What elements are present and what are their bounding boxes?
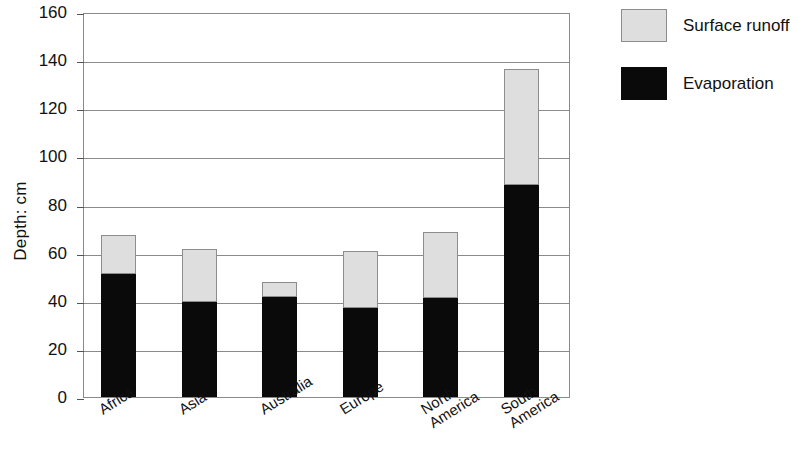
bar-segment-surface-runoff <box>262 282 297 298</box>
legend-label-evaporation: Evaporation <box>683 74 774 94</box>
y-axis-tick-mark <box>77 303 84 304</box>
legend-label-surface-runoff: Surface runoff <box>683 16 789 36</box>
bar-segment-evaporation <box>101 274 136 397</box>
bar-segment-surface-runoff <box>504 69 539 186</box>
gridline <box>84 62 569 63</box>
y-axis-tick-label: 100 <box>0 147 67 167</box>
bar-segment-surface-runoff <box>423 232 458 298</box>
y-axis-tick-mark <box>77 255 84 256</box>
bar-segment-evaporation <box>182 302 217 397</box>
bar-segment-surface-runoff <box>343 251 378 308</box>
bar-segment-evaporation <box>504 185 539 397</box>
gridline <box>84 110 569 111</box>
y-axis-tick-label: 80 <box>0 196 67 216</box>
y-axis-tick-mark <box>77 399 84 400</box>
y-axis-tick-mark <box>77 207 84 208</box>
gridline <box>84 303 569 304</box>
gridline <box>84 255 569 256</box>
bar-europe <box>343 251 378 397</box>
y-axis-tick-label: 40 <box>0 292 67 312</box>
y-axis-tick-mark <box>77 158 84 159</box>
bar-segment-surface-runoff <box>182 249 217 302</box>
y-axis-tick-label: 120 <box>0 99 67 119</box>
legend-swatch-evaporation <box>621 67 667 100</box>
stacked-bar-chart: Depth: cm 020406080100120140160 AfricaAs… <box>0 0 807 466</box>
y-axis-tick-mark <box>77 62 84 63</box>
plot-area <box>83 13 570 398</box>
y-axis-tick-label: 0 <box>0 388 67 408</box>
gridline <box>84 158 569 159</box>
bar-north-america <box>423 232 458 397</box>
bar-asia <box>182 249 217 397</box>
gridline <box>84 207 569 208</box>
y-axis-tick-mark <box>77 14 84 15</box>
legend-swatch-surface-runoff <box>621 9 667 42</box>
y-axis-tick-label: 160 <box>0 3 67 23</box>
gridline <box>84 351 569 352</box>
y-axis-tick-mark <box>77 351 84 352</box>
y-axis-tick-label: 140 <box>0 51 67 71</box>
y-axis-tick-label: 60 <box>0 244 67 264</box>
bar-south-america <box>504 69 539 397</box>
y-axis-tick-mark <box>77 110 84 111</box>
legend-entry-evaporation: Evaporation <box>621 67 774 100</box>
legend-entry-surface-runoff: Surface runoff <box>621 9 789 42</box>
bar-segment-surface-runoff <box>101 235 136 275</box>
y-axis-tick-label: 20 <box>0 340 67 360</box>
bar-africa <box>101 235 136 397</box>
